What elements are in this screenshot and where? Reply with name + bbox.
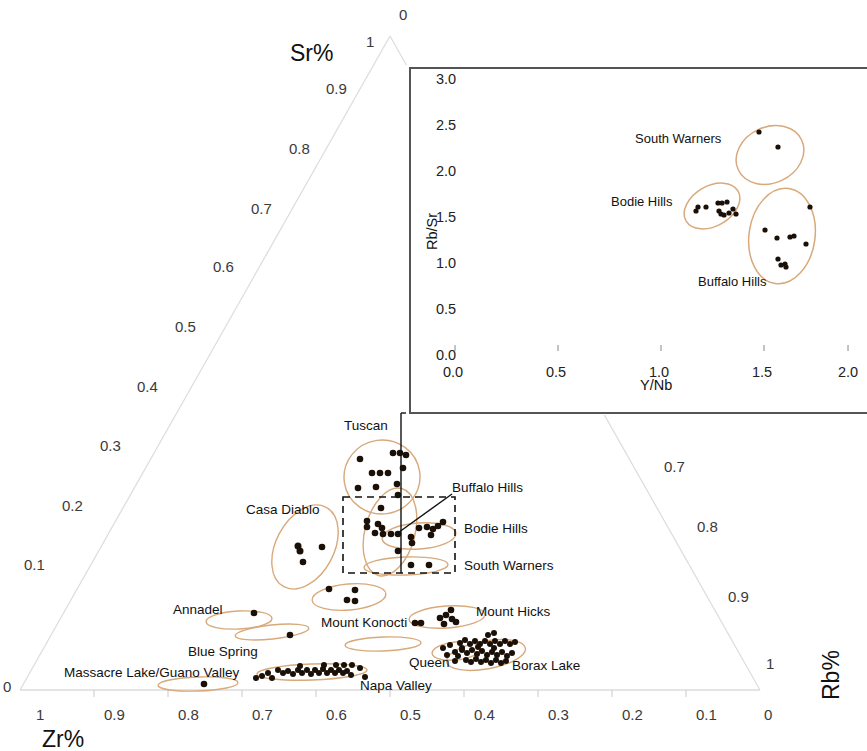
inset-background [406,65,867,415]
cluster-ellipses [158,435,528,692]
ternary-data-points [201,450,518,688]
ternary-figure [0,0,867,751]
ellipse-unnamed-1 [311,581,387,613]
ellipse-blue-spring [234,621,309,643]
ellipse-mount-konocti [345,636,421,653]
ellipse-annadel [206,609,273,630]
ellipse-casa-diablo [258,494,351,601]
